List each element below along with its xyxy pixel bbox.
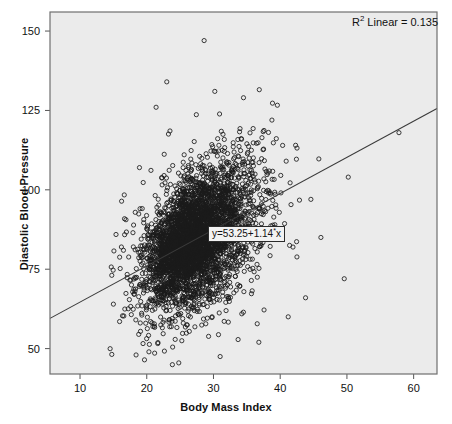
regression-equation-label: y=53.25+1.14*x bbox=[208, 226, 285, 242]
r-squared-symbol: R bbox=[352, 16, 360, 28]
plot-canvas bbox=[0, 0, 452, 424]
x-tick-label: 50 bbox=[341, 382, 353, 394]
x-axis-title: Body Mass Index bbox=[0, 401, 452, 413]
plot-area-background bbox=[50, 12, 437, 374]
equation-suffix: x bbox=[276, 228, 281, 239]
equation-prefix: y=53.25+1.14 bbox=[212, 228, 273, 239]
scatter-plot-figure: 102030405060 5075100125150 Body Mass Ind… bbox=[0, 0, 452, 424]
x-tick-label: 30 bbox=[207, 382, 219, 394]
y-axis-title: Diastolic Blood Pressure bbox=[18, 84, 30, 324]
x-tick-label: 60 bbox=[408, 382, 420, 394]
r-squared-value-text: Linear = 0.135 bbox=[364, 16, 438, 28]
y-tick-label: 150 bbox=[8, 25, 40, 37]
r-squared-annotation: R2 Linear = 0.135 bbox=[352, 16, 438, 28]
y-tick-label: 50 bbox=[8, 343, 40, 355]
x-tick-label: 20 bbox=[141, 382, 153, 394]
x-tick-label: 40 bbox=[274, 382, 286, 394]
x-tick-label: 10 bbox=[74, 382, 86, 394]
